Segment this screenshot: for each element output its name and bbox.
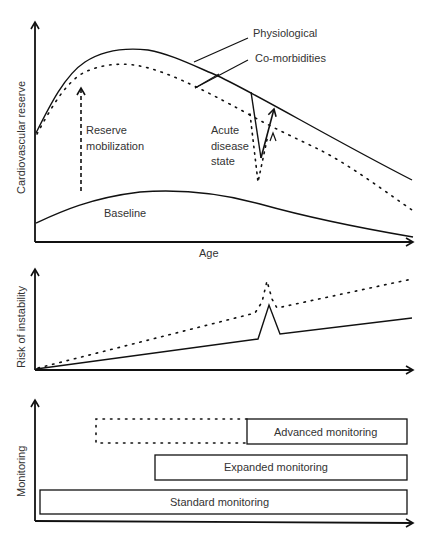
acute-dip-physiological: [251, 92, 261, 158]
small-recovery-arrow-icon: [270, 133, 276, 141]
physiological-label: Physiological: [253, 27, 317, 39]
monitoring-x-axis: [35, 521, 413, 523]
monitoring-panel: Advanced monitoring Expanded monitoring …: [15, 400, 413, 523]
comorbidities-leader-branch: [195, 74, 219, 88]
risk-physiological-line: [36, 305, 412, 369]
baseline-label: Baseline: [104, 207, 146, 219]
risk-y-label: Risk of instability: [15, 286, 27, 368]
reserve-label-1: Reserve: [86, 124, 127, 136]
reserve-x-label: Age: [199, 247, 219, 259]
standard-monitoring-label: Standard monitoring: [170, 496, 269, 508]
expanded-monitoring-label: Expanded monitoring: [224, 461, 328, 473]
comorbidities-curve: [37, 64, 412, 210]
comorbidities-label: Co-morbidities: [255, 52, 326, 64]
acute-label-2: disease: [211, 140, 249, 152]
advanced-monitoring-label: Advanced monitoring: [274, 426, 377, 438]
monitoring-y-label: Monitoring: [15, 446, 27, 497]
risk-panel: Risk of instability: [15, 269, 413, 370]
baseline-curve: [36, 191, 413, 237]
risk-comorbidities-line: [38, 279, 412, 368]
acute-label-3: state: [211, 155, 235, 167]
recovery-arrow-line: [261, 109, 274, 158]
diagram-canvas: Physiological Co-morbidities Reserve mob…: [0, 0, 435, 536]
physiological-leader: [194, 38, 248, 62]
reserve-panel: Physiological Co-morbidities Reserve mob…: [0, 0, 413, 259]
reserve-label-2: mobilization: [86, 140, 144, 152]
acute-label-1: Acute: [211, 124, 239, 136]
reserve-y-label: Cardiovascular reserve: [15, 81, 27, 194]
advanced-monitoring-dotted-extension: [96, 419, 247, 443]
